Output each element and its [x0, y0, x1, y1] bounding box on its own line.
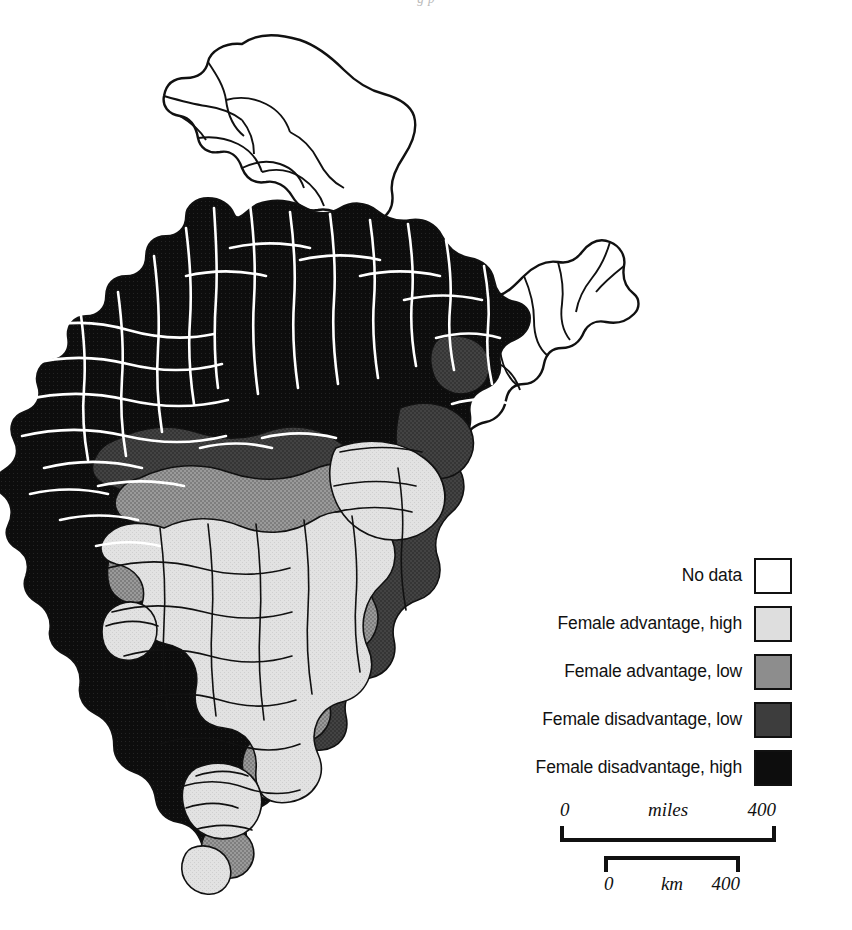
running-head-artifact: g p	[0, 0, 852, 7]
legend-item-female-disadvantage-high[interactable]: Female disadvantage, high	[500, 744, 792, 792]
scale-km-min: 0	[604, 874, 614, 893]
legend-item-female-advantage-high[interactable]: Female advantage, high	[500, 600, 792, 648]
map-legend: No data Female advantage, high Female ad…	[500, 552, 792, 792]
legend-item-female-advantage-low[interactable]: Female advantage, low	[500, 648, 792, 696]
legend-label-female-advantage-low: Female advantage, low	[564, 663, 754, 681]
scale-miles-bar-graphic	[560, 826, 776, 842]
scale-km-max: 400	[712, 874, 741, 893]
map-page: g p	[0, 0, 852, 930]
scale-bar-miles: 0 miles 400	[560, 800, 840, 856]
legend-swatch-female-disadvantage-high	[754, 750, 792, 786]
legend-swatch-female-advantage-low	[754, 654, 792, 690]
legend-label-female-disadvantage-high: Female disadvantage, high	[536, 759, 754, 777]
region-cape-light	[182, 763, 261, 839]
scale-miles-max: 400	[748, 800, 777, 819]
legend-label-female-advantage-high: Female advantage, high	[558, 615, 754, 633]
scale-km-unit: km	[661, 874, 683, 893]
scale-km-bar-graphic	[604, 856, 740, 872]
legend-item-no-data[interactable]: No data	[500, 552, 792, 600]
legend-swatch-female-advantage-high	[754, 606, 792, 642]
scale-miles-min: 0	[560, 800, 570, 819]
legend-item-female-disadvantage-low[interactable]: Female disadvantage, low	[500, 696, 792, 744]
scale-bars: 0 miles 400 0 km 400	[560, 800, 840, 908]
legend-swatch-female-disadvantage-low	[754, 702, 792, 738]
region-ne-fringe-dark	[431, 336, 490, 394]
scale-bar-km: 0 km 400	[604, 856, 840, 908]
legend-label-no-data: No data	[682, 567, 754, 585]
region-south-tip	[182, 846, 231, 894]
scale-miles-unit: miles	[648, 800, 688, 819]
legend-swatch-no-data	[754, 558, 792, 594]
legend-label-female-disadvantage-low: Female disadvantage, low	[542, 711, 754, 729]
